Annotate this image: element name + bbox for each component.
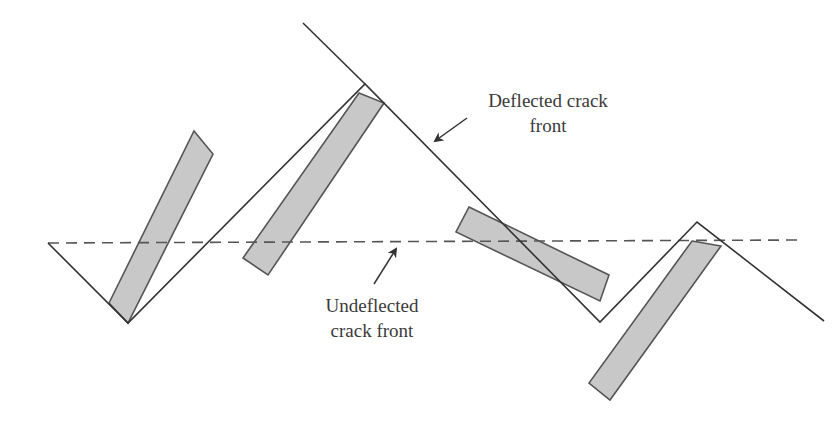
deflected-label-line-2: front: [468, 113, 628, 138]
undeflected-crack-front-label: Undeflected crack front: [308, 293, 436, 343]
undeflected-label-line-1: Undeflected: [308, 293, 436, 318]
deflected-crack-front-upper-segment: [303, 23, 365, 84]
deflected-crack-front-label: Deflected crack front: [468, 88, 628, 138]
deflected-label-line-1: Deflected crack: [468, 88, 628, 113]
particles-group: [109, 93, 721, 400]
deflected-arrow-icon: [435, 118, 467, 141]
particle-2: [243, 93, 384, 275]
undeflected-label-line-2: crack front: [308, 318, 436, 343]
undeflected-arrow-icon: [374, 249, 396, 284]
crack-deflection-diagram: [0, 0, 832, 423]
particle-1: [109, 131, 213, 323]
